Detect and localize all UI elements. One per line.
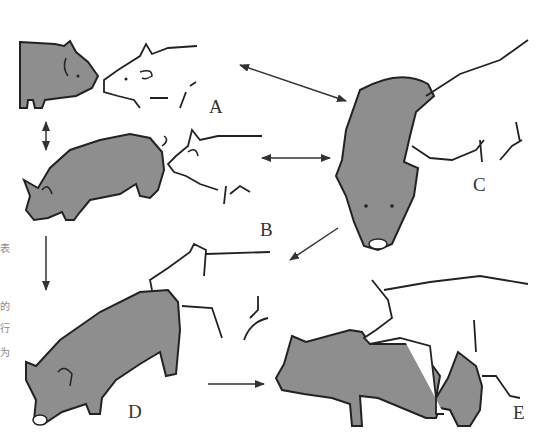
dark-sow-c: [336, 77, 434, 250]
side-text-1: 表: [0, 244, 10, 254]
dark-sow-e: [276, 330, 482, 426]
side-text-4: 为: [0, 348, 10, 358]
white-boar-a: [104, 44, 197, 108]
pig-mating-behavior-figure: A B C D E 表 的 行 为: [0, 0, 537, 437]
panel-label-b: B: [260, 220, 273, 239]
panel-label-c: C: [473, 175, 486, 194]
dark-sow-b: [24, 134, 164, 220]
dark-sow-d: [26, 290, 180, 424]
arrow-a-c: [240, 65, 346, 101]
dark-sow-a: [20, 41, 98, 108]
side-text-2: 的: [0, 302, 10, 312]
panel-a: [20, 41, 197, 108]
panel-label-d: D: [128, 402, 142, 421]
panel-b: [24, 130, 262, 220]
panel-e: [276, 276, 528, 426]
panel-label-a: A: [209, 97, 223, 116]
side-text-3: 行: [0, 324, 10, 334]
panel-c: [336, 40, 528, 250]
white-boar-b: [168, 130, 262, 204]
panel-label-e: E: [513, 403, 525, 422]
panel-d: [26, 244, 270, 425]
arrow-c-d: [290, 228, 338, 260]
